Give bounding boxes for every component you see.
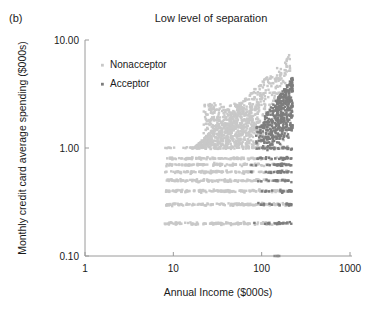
data-point: [180, 190, 182, 192]
data-point: [197, 181, 199, 183]
data-point: [280, 106, 282, 108]
data-point: [256, 121, 258, 123]
data-point: [206, 113, 208, 115]
data-point: [205, 118, 207, 120]
data-point: [287, 91, 289, 93]
data-point: [238, 171, 240, 173]
data-point: [290, 171, 292, 173]
data-point: [227, 180, 229, 182]
data-point: [264, 116, 266, 118]
data-point: [248, 146, 250, 148]
data-point: [264, 190, 266, 192]
data-point: [225, 139, 227, 141]
data-point: [240, 116, 242, 118]
data-point: [193, 170, 195, 172]
data-point: [168, 179, 170, 181]
data-point: [247, 125, 249, 127]
data-point: [248, 142, 250, 144]
data-point: [285, 171, 287, 173]
data-point: [268, 190, 270, 192]
data-point: [191, 148, 193, 150]
data-point: [202, 189, 204, 191]
data-point: [232, 129, 234, 131]
data-point: [237, 181, 239, 183]
data-point: [264, 108, 266, 110]
data-point: [220, 163, 222, 165]
data-point: [277, 171, 279, 173]
data-point: [283, 75, 285, 77]
data-point: [203, 123, 205, 125]
data-point: [228, 123, 230, 125]
data-point: [243, 104, 245, 106]
data-point: [233, 111, 235, 113]
data-point: [286, 60, 288, 62]
data-point: [257, 113, 259, 115]
data-point: [244, 119, 246, 121]
data-point: [205, 123, 207, 125]
data-point: [255, 140, 257, 142]
data-point: [254, 114, 256, 116]
data-point: [256, 93, 258, 95]
data-point: [222, 116, 224, 118]
data-point: [283, 146, 285, 148]
data-point: [268, 203, 270, 205]
data-point: [250, 171, 252, 173]
data-point: [229, 171, 231, 173]
data-point: [242, 146, 244, 148]
data-point: [273, 140, 275, 142]
data-point: [263, 79, 265, 81]
data-point: [263, 122, 265, 124]
data-point: [200, 171, 202, 173]
data-point: [256, 223, 258, 225]
y-axis-ticks: 0.101.0010.00: [54, 35, 89, 262]
data-point: [236, 140, 238, 142]
data-point: [290, 181, 292, 183]
data-point: [173, 146, 175, 148]
data-points-layer: [164, 54, 294, 257]
data-point: [167, 146, 169, 148]
data-point: [268, 104, 270, 106]
data-point: [237, 134, 239, 136]
data-point: [282, 96, 284, 98]
data-point: [210, 140, 212, 142]
data-point: [222, 120, 224, 122]
data-point: [223, 131, 225, 133]
data-point: [178, 157, 180, 159]
data-point: [227, 158, 229, 160]
data-point: [191, 204, 193, 206]
data-point: [291, 88, 293, 90]
data-point: [229, 112, 231, 114]
data-point: [283, 163, 285, 165]
data-point: [196, 163, 198, 165]
data-point: [266, 149, 268, 151]
data-point: [286, 65, 288, 67]
data-point: [258, 85, 260, 87]
data-point: [282, 138, 284, 140]
data-point: [202, 223, 204, 225]
data-point: [195, 158, 197, 160]
data-point: [211, 107, 213, 109]
data-point: [260, 180, 262, 182]
data-point: [263, 165, 265, 167]
data-point: [230, 135, 232, 137]
data-point: [287, 97, 289, 99]
data-point: [280, 110, 282, 112]
data-point: [272, 111, 274, 113]
data-point: [282, 103, 284, 105]
x-tick-label: 1000: [339, 263, 362, 274]
data-point: [274, 115, 276, 117]
data-point: [278, 124, 280, 126]
data-point: [200, 180, 202, 182]
data-point: [263, 203, 265, 205]
data-point: [253, 222, 255, 224]
data-point: [242, 100, 244, 102]
y-tick-label: 0.10: [60, 251, 80, 262]
data-point: [238, 157, 240, 159]
data-point: [261, 157, 263, 159]
data-point: [280, 72, 282, 74]
data-point: [217, 113, 219, 115]
x-axis-title: Annual Income ($000s): [164, 286, 273, 298]
data-point: [253, 179, 255, 181]
data-point: [248, 136, 250, 138]
data-point: [276, 93, 278, 95]
